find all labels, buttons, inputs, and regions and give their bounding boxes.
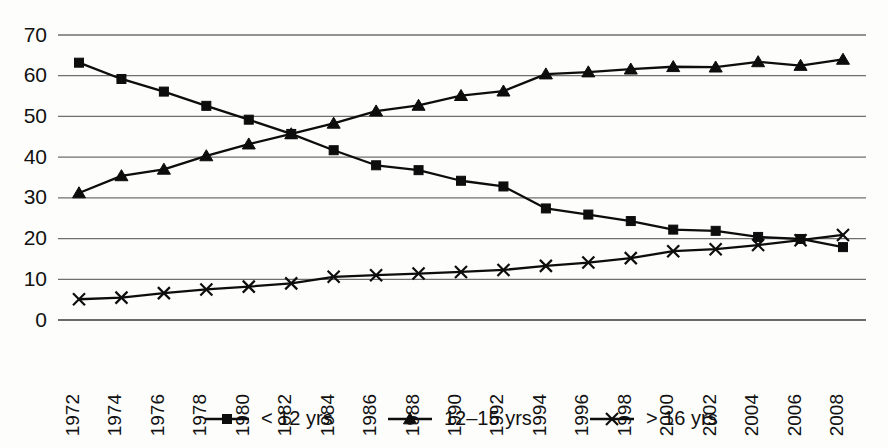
y-axis-tick-label: 70 — [24, 23, 47, 46]
series-line — [79, 59, 843, 193]
series-line — [79, 235, 843, 299]
x-axis-tick-label: 1976 — [147, 394, 168, 436]
x-axis-tick-label: 1980 — [232, 394, 253, 436]
data-point-marker-square — [159, 87, 168, 96]
x-axis-tick-label: 1978 — [189, 394, 210, 436]
y-axis-tick-label: 40 — [24, 145, 47, 168]
data-point-marker-square — [75, 58, 84, 67]
y-axis-tick-label: 10 — [24, 267, 47, 290]
data-series-group — [72, 53, 849, 305]
data-point-marker-square — [329, 146, 338, 155]
data-point-marker-square — [457, 176, 466, 185]
x-axis-tick-label: 2006 — [784, 394, 805, 436]
data-point-marker-square — [626, 217, 635, 226]
x-axis-tick-label: 1986 — [359, 394, 380, 436]
chart-canvas: 010203040506070 197219741976197819801982… — [0, 0, 888, 448]
data-point-marker-square — [499, 182, 508, 191]
y-axis-tick-label: 50 — [24, 104, 47, 127]
x-axis-tick-label: 2008 — [826, 394, 847, 436]
data-point-marker-square — [414, 166, 423, 175]
series-x — [73, 229, 849, 305]
y-axis-tick-label: 30 — [24, 185, 47, 208]
legend-label: > 16 yrs — [646, 407, 718, 429]
data-point-marker-square — [244, 115, 253, 124]
x-axis-tick-label: 1988 — [402, 394, 423, 436]
legend-item-x[interactable]: > 16 yrs — [590, 407, 718, 429]
data-point-marker-square — [223, 415, 232, 424]
y-axis-tick-label: 0 — [35, 308, 47, 331]
data-point-marker-square — [541, 204, 550, 213]
legend-item-square[interactable]: < 12 yrs — [205, 407, 333, 429]
x-axis-tick-label: 2004 — [741, 394, 762, 437]
y-axis-tick-label: 60 — [24, 63, 47, 86]
data-point-marker-square — [754, 232, 763, 241]
data-point-marker-square — [711, 226, 720, 235]
data-point-marker-square — [669, 225, 678, 234]
x-axis-tick-label: 1972 — [62, 394, 83, 436]
data-point-marker-square — [117, 74, 126, 83]
series-square — [75, 58, 848, 251]
line-chart: 010203040506070 197219741976197819801982… — [0, 0, 888, 448]
data-point-marker-square — [839, 243, 848, 252]
data-point-marker-square — [372, 161, 381, 170]
y-axis-tick-labels: 010203040506070 — [24, 23, 47, 331]
x-axis-tick-label: 1974 — [104, 394, 125, 437]
data-point-marker-square — [202, 101, 211, 110]
x-axis-tick-label: 1996 — [571, 394, 592, 436]
data-point-marker-triangle — [836, 53, 849, 64]
chart-legend: < 12 yrs12–15 yrs> 16 yrs — [205, 407, 718, 429]
legend-label: < 12 yrs — [261, 407, 333, 429]
legend-label: 12–15 yrs — [444, 407, 532, 429]
data-point-marker-square — [584, 210, 593, 219]
y-axis-tick-label: 20 — [24, 226, 47, 249]
x-axis-tick-label: 1994 — [529, 394, 550, 437]
